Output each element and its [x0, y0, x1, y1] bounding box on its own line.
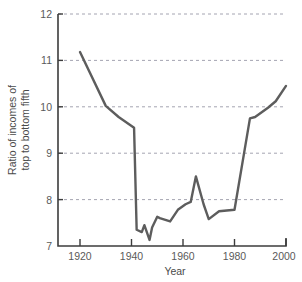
- y-tick-labels: 12 11 10 9 8 7: [40, 8, 52, 252]
- y-tick-label-8: 8: [46, 194, 52, 206]
- data-line-income-ratio: [80, 52, 286, 240]
- income-ratio-line-chart: 12 11 10 9 8 7 1920 1940 1960 1980 2000 …: [0, 0, 302, 282]
- gridlines: [58, 14, 286, 200]
- x-axis-title: Year: [164, 265, 186, 277]
- x-tick-label-2000: 2000: [272, 250, 296, 262]
- x-tick-label-1980: 1980: [223, 250, 247, 262]
- x-tick-marks: [80, 239, 286, 246]
- x-tick-label-1940: 1940: [120, 250, 144, 262]
- y-axis-title-line1: Ratio of incomes of: [6, 85, 18, 175]
- y-axis-title-line2: top to bottom fifth: [19, 89, 31, 170]
- y-tick-label-7: 7: [46, 240, 52, 252]
- axis-frame: [58, 14, 286, 246]
- y-tick-label-10: 10: [40, 101, 52, 113]
- x-tick-labels: 1920 1940 1960 1980 2000: [68, 250, 296, 262]
- y-tick-label-11: 11: [41, 54, 52, 66]
- x-tick-label-1920: 1920: [68, 250, 92, 262]
- axes: [58, 14, 286, 246]
- x-tick-label-1960: 1960: [171, 250, 195, 262]
- chart-container: 12 11 10 9 8 7 1920 1940 1960 1980 2000 …: [0, 0, 302, 282]
- y-tick-label-12: 12: [40, 8, 52, 20]
- y-tick-label-9: 9: [46, 147, 52, 159]
